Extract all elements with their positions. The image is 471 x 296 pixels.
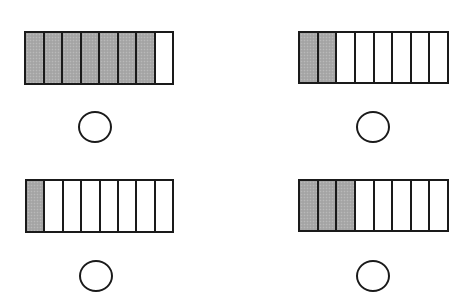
shaded-part [319, 181, 338, 230]
answer-circle[interactable] [78, 111, 112, 143]
shaded-part [100, 33, 119, 83]
shaded-part [300, 181, 319, 230]
unshaded-part [375, 181, 394, 230]
unshaded-part [137, 181, 155, 231]
unshaded-part [64, 181, 82, 231]
unshaded-part [45, 181, 63, 231]
unshaded-part [430, 33, 447, 82]
unshaded-part [119, 181, 137, 231]
unshaded-part [356, 181, 375, 230]
answer-circle[interactable] [356, 260, 390, 292]
unshaded-part [356, 33, 375, 82]
unshaded-part [393, 181, 412, 230]
unshaded-part [156, 33, 173, 83]
unshaded-part [412, 181, 431, 230]
shaded-part [27, 181, 45, 231]
shaded-part [300, 33, 319, 82]
unshaded-part [156, 181, 172, 231]
unshaded-part [101, 181, 119, 231]
fraction-bar [298, 31, 449, 84]
shaded-part [82, 33, 101, 83]
unshaded-part [430, 181, 447, 230]
shaded-part [63, 33, 82, 83]
fraction-bar [24, 31, 174, 85]
answer-circle[interactable] [79, 260, 113, 292]
unshaded-part [375, 33, 394, 82]
shaded-part [119, 33, 138, 83]
fraction-bar [298, 179, 449, 232]
unshaded-part [337, 33, 356, 82]
shaded-part [45, 33, 64, 83]
unshaded-part [82, 181, 100, 231]
fraction-bar [25, 179, 174, 233]
answer-circle[interactable] [356, 111, 390, 143]
shaded-part [337, 181, 356, 230]
shaded-part [137, 33, 156, 83]
unshaded-part [412, 33, 431, 82]
unshaded-part [393, 33, 412, 82]
shaded-part [319, 33, 338, 82]
shaded-part [26, 33, 45, 83]
